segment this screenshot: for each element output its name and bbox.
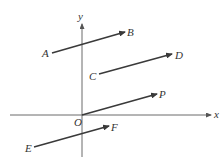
point-label-p: P bbox=[158, 88, 166, 100]
vector-ab bbox=[52, 32, 125, 53]
origin-label: O bbox=[74, 116, 82, 128]
x-axis-label: x bbox=[213, 108, 219, 120]
point-label-b: B bbox=[127, 26, 134, 38]
point-label-f: F bbox=[110, 121, 118, 133]
point-label-a: A bbox=[41, 47, 49, 59]
diagram-canvas: x y O A B C D P E F bbox=[0, 0, 224, 168]
vector-diagram: x y O A B C D P E F bbox=[0, 0, 224, 168]
vector-op bbox=[82, 94, 157, 115]
point-label-e: E bbox=[24, 142, 32, 154]
y-axis-label: y bbox=[77, 10, 83, 22]
point-label-d: D bbox=[174, 49, 183, 61]
vector-cd bbox=[99, 54, 172, 74]
point-label-c: C bbox=[89, 70, 97, 82]
vector-ef bbox=[34, 126, 109, 147]
